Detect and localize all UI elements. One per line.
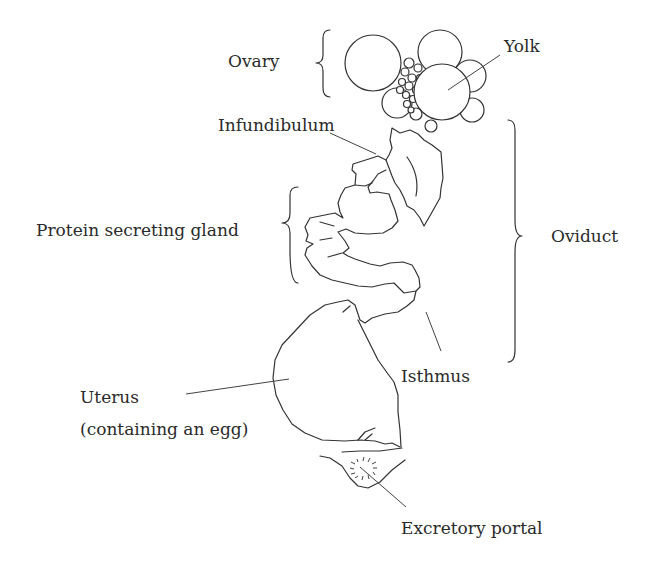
- infundibulum-label: Infundibulum: [218, 115, 335, 135]
- ovary-brace: [316, 30, 330, 97]
- ovary-label: Ovary: [228, 51, 280, 71]
- oviduct-brace: [508, 120, 522, 362]
- uterus-label: Uterus: [80, 387, 139, 407]
- excretory-portal-label: Excretory portal: [401, 518, 543, 538]
- protein-gland-label: Protein secreting gland: [36, 220, 239, 240]
- isthmus-label: Isthmus: [401, 366, 470, 386]
- ovary-cluster: [345, 30, 486, 132]
- protein-gland-brace: [282, 187, 298, 283]
- excretory-opening: [350, 457, 377, 480]
- uterus-sublabel: (containing an egg): [80, 419, 248, 439]
- oviduct-label: Oviduct: [551, 226, 618, 246]
- hen-reproductive-system-diagram: Ovary Yolk Infundibulum Protein secretin…: [0, 0, 657, 565]
- yolk-label: Yolk: [503, 36, 540, 56]
- oviduct-drawing: [273, 128, 443, 488]
- yolk-follicle: [414, 64, 470, 120]
